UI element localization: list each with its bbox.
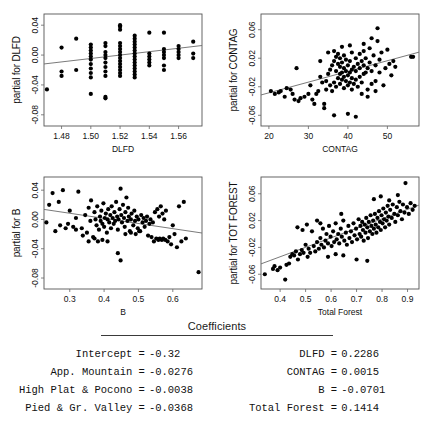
y-tick-label: 0.02 [247, 212, 257, 229]
data-point [318, 75, 322, 79]
coefficient-value-right: 0.0015 [341, 363, 415, 381]
data-point [283, 95, 287, 99]
data-point [332, 59, 336, 63]
data-point [386, 204, 390, 208]
data-point [370, 232, 374, 236]
panel-contag-plot: 20304050-0.06-0.020.020.06CONTAGpartial … [228, 14, 419, 154]
data-point [334, 69, 338, 73]
data-point [287, 261, 291, 265]
data-point [334, 252, 338, 256]
data-point [298, 96, 302, 100]
data-point [349, 229, 353, 233]
data-point [345, 243, 349, 247]
data-point [155, 207, 159, 211]
data-point [354, 69, 358, 73]
data-point [387, 198, 391, 202]
data-point [273, 92, 277, 96]
data-point [103, 44, 107, 48]
data-point [294, 66, 298, 70]
data-point [116, 251, 120, 255]
data-point [379, 228, 383, 232]
data-point [307, 247, 311, 251]
data-point [365, 259, 369, 263]
data-point [356, 62, 360, 66]
data-point [372, 197, 376, 201]
data-point [330, 63, 334, 67]
data-point [377, 70, 381, 74]
data-point [396, 193, 400, 197]
data-point [384, 210, 388, 214]
data-point [363, 231, 367, 235]
x-tick-label: 50 [383, 131, 393, 141]
data-point [103, 65, 107, 69]
data-point [324, 88, 328, 92]
data-point [390, 216, 394, 220]
data-point [182, 200, 186, 204]
data-point [397, 200, 401, 204]
data-point [74, 216, 78, 220]
data-point [391, 202, 395, 206]
data-point [395, 205, 399, 209]
data-point [358, 52, 362, 56]
data-point [362, 42, 366, 46]
coefficient-row: App. Mountain =-0.0276CONTAG =0.0015 [19, 363, 415, 381]
data-point [334, 221, 338, 225]
data-point [66, 222, 70, 226]
data-point [334, 85, 338, 89]
data-point [132, 209, 136, 213]
data-point [87, 206, 91, 210]
data-point [348, 80, 352, 84]
data-point [385, 218, 389, 222]
data-point [340, 60, 344, 64]
data-point [61, 188, 65, 192]
data-point [371, 53, 375, 57]
data-point [389, 73, 393, 77]
x-tick-label: 1.52 [112, 131, 129, 141]
data-point [104, 212, 108, 216]
data-point [118, 74, 122, 78]
data-point [366, 236, 370, 240]
data-point [324, 79, 328, 83]
x-tick-label: 30 [304, 131, 314, 141]
data-point [285, 86, 289, 90]
data-point [337, 241, 341, 245]
data-point [145, 214, 149, 218]
data-point [362, 63, 366, 67]
data-point [116, 228, 120, 232]
data-point [105, 239, 109, 243]
data-point [116, 217, 120, 221]
y-axis-label: partial for B [11, 208, 22, 257]
data-point [318, 236, 322, 240]
data-point [365, 225, 369, 229]
data-point [392, 212, 396, 216]
data-point [94, 223, 98, 227]
coefficient-label-left: Intercept = [19, 345, 149, 363]
coefficient-value-left: -0.0276 [149, 363, 235, 381]
y-tick-label: -0.06 [247, 264, 257, 284]
data-point [338, 82, 342, 86]
coefficient-row: Pied & Gr. Valley =-0.0368Total Forest =… [19, 399, 415, 417]
data-point [96, 239, 100, 243]
data-point [83, 213, 87, 217]
x-tick-label: 20 [264, 131, 274, 141]
panel-b-plot: 0.30.40.50.6-0.08-0.040.000.04Bpartial f… [11, 177, 202, 317]
data-point [76, 190, 80, 194]
data-point [344, 69, 348, 73]
panel-total-forest: 0.40.50.60.70.80.9-0.06-0.020.020.06Tota… [217, 165, 434, 325]
data-point [160, 212, 164, 216]
data-point [184, 236, 188, 240]
data-point [328, 235, 332, 239]
data-point [191, 56, 195, 60]
coefficients-title: Coefficients [0, 318, 434, 332]
data-point [88, 219, 92, 223]
data-point [373, 89, 377, 93]
data-point [100, 238, 104, 242]
data-point [171, 223, 175, 227]
plot-frame [44, 177, 202, 289]
data-point [126, 206, 130, 210]
data-point [306, 92, 310, 96]
y-tick-label: -0.04 [30, 75, 40, 95]
x-tick-label: 0.9 [402, 294, 414, 304]
panel-contag-svg: 20304050-0.06-0.020.020.06CONTAGpartial … [217, 2, 434, 162]
data-point [315, 240, 319, 244]
